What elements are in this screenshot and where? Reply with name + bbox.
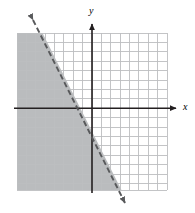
coordinate-plane-svg	[0, 0, 195, 213]
x-axis-label: x	[183, 102, 187, 112]
y-axis-label: y	[89, 6, 93, 16]
graph-figure: y x	[0, 0, 195, 213]
